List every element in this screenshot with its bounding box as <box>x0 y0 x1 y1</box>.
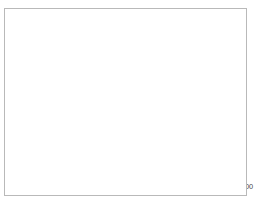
chart-container: 0500100015002000250019781980198219841986… <box>0 0 257 207</box>
chart-frame-border <box>4 8 247 196</box>
